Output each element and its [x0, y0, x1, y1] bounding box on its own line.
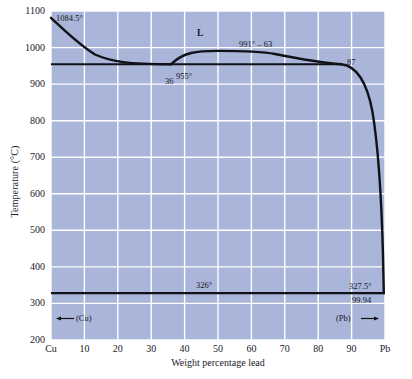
annotation-dome-top-991-63: 991° – 63: [239, 40, 272, 49]
phase-diagram-figure: Temperature (°C) Weight percentage lead …: [0, 0, 412, 379]
phase-label-pb: (Pb): [336, 313, 351, 323]
y-tick-300: 300: [5, 298, 45, 308]
annotation-eutectic-temp-327: 327.5°: [349, 282, 372, 291]
annotation-liquid-region: L: [197, 29, 203, 38]
y-tick-900: 900: [5, 79, 45, 89]
annotation-monotectic-temp-955: 955°: [176, 72, 192, 81]
phase-label-cu: (Cu): [76, 313, 92, 323]
y-axis-title: Temperature (°C): [9, 122, 20, 242]
annotation-pb-solubility-99: 99.94: [352, 296, 371, 305]
annotation-cu-melting-point: 1084.5°: [56, 14, 83, 23]
y-tick-500: 500: [5, 225, 45, 235]
y-tick-1000: 1000: [5, 43, 45, 53]
x-tick-pb: Pb: [365, 344, 405, 354]
y-tick-700: 700: [5, 152, 45, 162]
x-axis-title: Weight percentage lead: [51, 357, 385, 368]
y-tick-400: 400: [5, 262, 45, 272]
annotation-eutectic-temp-326: 326°: [196, 281, 212, 290]
annotation-monotectic-comp-87: 87: [347, 58, 356, 67]
y-tick-800: 800: [5, 116, 45, 126]
y-tick-600: 600: [5, 189, 45, 199]
annotation-monotectic-comp-36: 36: [165, 77, 174, 86]
y-tick-1100: 1100: [5, 6, 45, 16]
